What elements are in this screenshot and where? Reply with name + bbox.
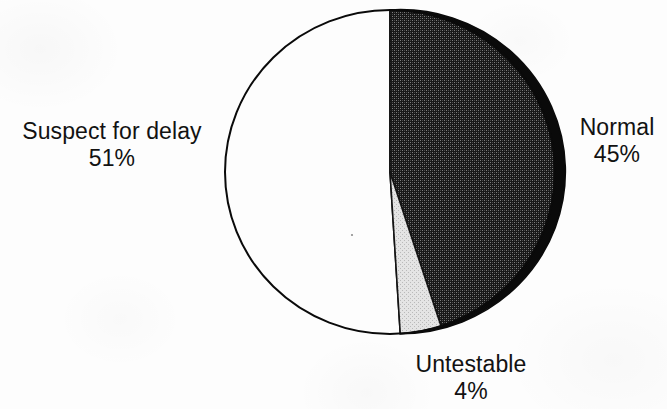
pie-label-untestable: Untestable 4% <box>408 351 534 404</box>
scan-speck <box>351 234 353 236</box>
pie-label-suspect-for-delay-value: 51% <box>16 145 208 172</box>
pie-label-untestable-value: 4% <box>408 378 534 405</box>
pie-label-suspect-for-delay-name: Suspect for delay <box>16 118 208 145</box>
pie-label-normal-value: 45% <box>574 141 660 168</box>
pie-chart-figure: Suspect for delay 51% Normal 45% Untesta… <box>0 0 667 409</box>
pie-label-normal: Normal 45% <box>574 114 660 167</box>
pie-label-untestable-name: Untestable <box>408 351 534 378</box>
pie-chart-svg <box>0 0 667 409</box>
pie-label-normal-name: Normal <box>574 114 660 141</box>
pie-label-suspect-for-delay: Suspect for delay 51% <box>16 118 208 171</box>
